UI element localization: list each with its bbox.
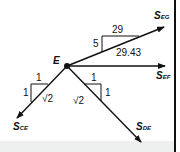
de-run-label: 1	[91, 73, 97, 83]
de-rise-label: 1	[105, 88, 111, 98]
de-hyp-label: √2	[73, 96, 84, 106]
ce-run-label: 1	[36, 73, 42, 83]
ce-hyp-label: √2	[42, 94, 53, 104]
eg-hyp-label: 29.43	[116, 48, 141, 58]
eg-run-label: 29	[112, 25, 123, 35]
force-label-ef: SEF	[156, 71, 170, 81]
eg-rise-label: 5	[93, 39, 99, 49]
node-label-e: E	[53, 56, 60, 66]
joint-e	[64, 63, 70, 69]
ce-rise-label: 1	[23, 88, 29, 98]
force-label-ce: SCE	[13, 122, 28, 132]
force-label-eg: SEG	[154, 11, 169, 21]
force-label-de: SDE	[136, 122, 151, 132]
